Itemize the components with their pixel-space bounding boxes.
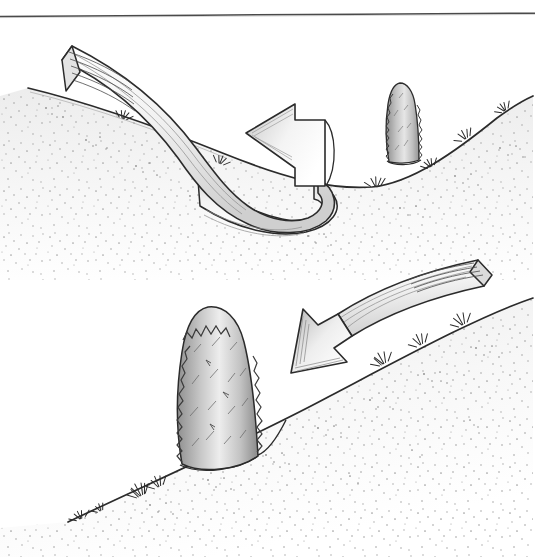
top-horizontal-rule <box>0 13 535 17</box>
upper-scene <box>0 46 535 290</box>
illustration-canvas: Wind flow over hillside with shrub windb… <box>0 0 535 557</box>
lower-scene <box>0 260 535 557</box>
upper-soil-body <box>0 80 535 290</box>
landscape-illustration <box>0 0 535 557</box>
shrub-lower <box>177 307 286 470</box>
shrub-upper <box>386 83 422 165</box>
